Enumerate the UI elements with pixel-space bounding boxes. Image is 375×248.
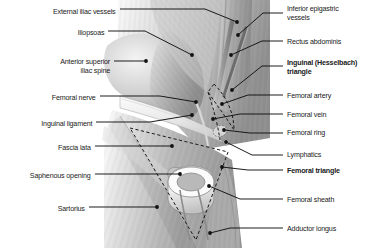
leader-dot-lymphatics bbox=[224, 140, 228, 144]
leader-dot-femoral-nerve bbox=[194, 100, 198, 104]
label-femoral-vein: Femoral vein bbox=[287, 110, 326, 119]
leader-dot-sartorius bbox=[155, 205, 159, 209]
leader-dot-iliopsoas bbox=[190, 53, 194, 57]
leader-dot-inferior-epigastric-vessels bbox=[236, 33, 240, 37]
leader-dot-fascia-lata bbox=[170, 144, 174, 148]
label-femoral-ring: Femoral ring bbox=[287, 128, 325, 137]
illustration bbox=[97, 0, 270, 248]
label-adductor-longus: Adductor longus bbox=[287, 224, 336, 233]
label-inguinal-hesselbach-triangle: Inguinal (Hesselbach) triangle bbox=[287, 58, 357, 76]
leader-dot-femoral-triangle bbox=[220, 165, 224, 169]
label-fascia-lata: Fascia lata bbox=[58, 143, 91, 152]
label-sartorius: Sartorius bbox=[58, 204, 85, 213]
leader-dot-anterior-superior-iliac-spine bbox=[144, 59, 148, 63]
label-rectus-abdominis: Rectus abdominis bbox=[287, 37, 341, 46]
leader-dot-inguinal-ligament bbox=[190, 113, 194, 117]
leader-dot-femoral-ring bbox=[222, 128, 226, 132]
leader-dot-femoral-vein bbox=[211, 117, 215, 121]
label-anterior-superior-iliac-spine: Anterior superior iliac spine bbox=[60, 57, 110, 75]
label-femoral-sheath: Femoral sheath bbox=[287, 195, 334, 204]
label-iliopsoas: Iliopsoas bbox=[77, 28, 104, 37]
leader-dot-rectus-abdominis bbox=[229, 53, 233, 57]
label-inferior-epigastric-vessels: Inferior epigastric vessels bbox=[287, 4, 339, 22]
label-femoral-triangle: Femoral triangle bbox=[287, 166, 340, 175]
label-lymphatics: Lymphatics bbox=[287, 150, 321, 159]
label-femoral-artery: Femoral artery bbox=[287, 91, 331, 100]
leader-dot-saphenous-opening bbox=[178, 172, 182, 176]
label-external-iliac-vessels: External iliac vessels bbox=[53, 7, 116, 16]
label-saphenous-opening: Saphenous opening bbox=[30, 171, 91, 180]
label-femoral-nerve: Femoral nerve bbox=[52, 93, 96, 102]
leader-dot-external-iliac-vessels bbox=[235, 20, 239, 24]
label-inguinal-ligament: Inguinal ligament bbox=[41, 119, 92, 128]
leader-dot-femoral-sheath bbox=[207, 184, 211, 188]
leader-dot-inguinal-hesselbach-triangle bbox=[230, 88, 234, 92]
femoral-sheath-lumen bbox=[177, 173, 205, 191]
leader-dot-femoral-artery bbox=[220, 102, 224, 106]
leader-dot-adductor-longus bbox=[208, 231, 212, 235]
